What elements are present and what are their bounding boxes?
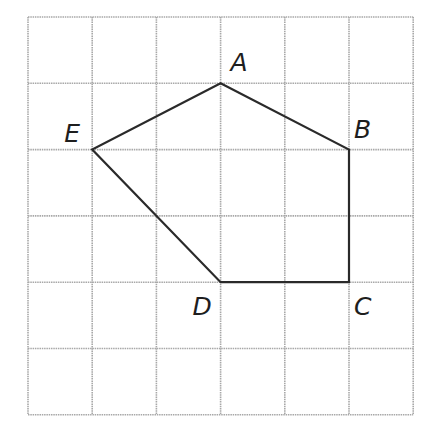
square-grid — [28, 17, 413, 415]
grid-diagram: A B C D E — [0, 0, 431, 432]
vertex-label-b: B — [354, 115, 371, 144]
vertex-label-e: E — [64, 119, 80, 148]
vertex-label-a: A — [229, 48, 248, 77]
vertex-label-c: C — [354, 292, 372, 321]
vertex-label-d: D — [193, 292, 212, 321]
